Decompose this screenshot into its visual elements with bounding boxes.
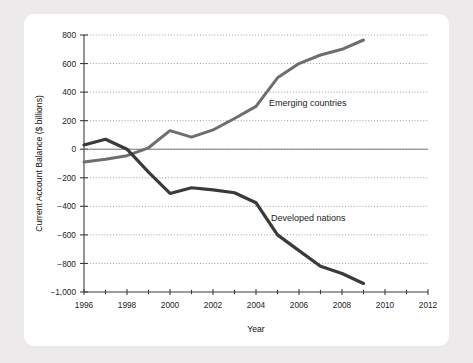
x-tick-label: 2002 <box>204 300 223 310</box>
y-tick-label: −200 <box>57 173 76 183</box>
y-tick-label: −800 <box>57 259 76 269</box>
x-tick-label: 2010 <box>376 300 395 310</box>
y-tick-label: 800 <box>62 30 76 40</box>
x-tick-label: 1996 <box>75 300 94 310</box>
y-tick-label: 200 <box>62 116 76 126</box>
series-line-2 <box>84 139 364 283</box>
y-axis-tick-labels: 8006004002000−200−400−600−800−1,000 <box>50 30 76 297</box>
y-tick-label: −600 <box>57 230 76 240</box>
chart-card: 8006004002000−200−400−600−800−1,000 1996… <box>24 14 449 346</box>
series-annotations: Emerging countriesDeveloped nations <box>269 98 347 223</box>
x-tick-label: 2004 <box>247 300 266 310</box>
x-tick-label: 2012 <box>419 300 438 310</box>
y-tick-label: 400 <box>62 87 76 97</box>
y-axis-title: Current Account Balance ($ billions) <box>34 95 44 232</box>
data-series <box>84 40 364 283</box>
chart-figure: 8006004002000−200−400−600−800−1,000 1996… <box>24 14 449 346</box>
page-root: 8006004002000−200−400−600−800−1,000 1996… <box>0 0 473 363</box>
x-axis-tick-labels: 199619982000200220042006200820102012 <box>75 300 438 310</box>
y-tick-label: −400 <box>57 201 76 211</box>
y-tick-label: 600 <box>62 59 76 69</box>
line-chart: 8006004002000−200−400−600−800−1,000 1996… <box>24 14 449 346</box>
x-tick-label: 2008 <box>333 300 352 310</box>
x-axis-title: Year <box>247 324 265 334</box>
x-tick-label: 1998 <box>118 300 137 310</box>
x-tick-label: 2000 <box>161 300 180 310</box>
series-label-2: Developed nations <box>271 213 346 223</box>
y-tick-label: 0 <box>71 144 76 154</box>
series-label-1: Emerging countries <box>269 98 347 108</box>
x-tick-label: 2006 <box>290 300 309 310</box>
y-tick-label: −1,000 <box>50 287 76 297</box>
